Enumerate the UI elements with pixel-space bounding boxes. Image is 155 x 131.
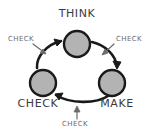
node-label-check: CHECK [18,97,59,110]
cycle-diagram: THINK MAKE CHECK CHECK CHECK CHECK [0,0,155,131]
node-label-think: THINK [58,7,96,20]
diagram-canvas: THINK MAKE CHECK CHECK CHECK CHECK [0,0,155,131]
annotation-label-top-right: CHECK [116,35,142,43]
node-think[interactable] [64,31,90,57]
annotation-label-bottom: CHECK [62,120,88,128]
annotation-pointer-bottom-icon [74,106,80,119]
annotation-label-top-left: CHECK [8,35,34,43]
arrow-think-to-make [92,42,121,69]
node-check[interactable] [30,70,56,96]
arrow-think-to-make-head [113,61,121,69]
node-label-make: MAKE [100,97,134,110]
node-make[interactable] [99,70,125,96]
